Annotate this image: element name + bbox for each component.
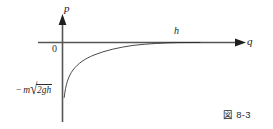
figure-caption: 図 8-3 xyxy=(223,107,251,121)
h-annotation-label: h xyxy=(174,26,179,36)
p-axis-arrowhead-icon xyxy=(59,14,67,25)
momentum-curve xyxy=(64,43,200,98)
q-axis-arrowhead-icon xyxy=(235,39,246,47)
mass-symbol: m xyxy=(23,85,30,95)
origin-label: 0 xyxy=(52,44,57,54)
minus-sign: − xyxy=(16,85,21,95)
minimum-momentum-label: −m√2gh xyxy=(16,82,52,96)
radicand: 2gh xyxy=(36,84,52,95)
p-axis-label: p xyxy=(64,3,70,14)
square-root-group: √2gh xyxy=(30,82,52,96)
q-axis-label: q xyxy=(247,36,253,47)
figure-container: p q h 0 −m√2gh 図 8-3 xyxy=(0,0,273,129)
